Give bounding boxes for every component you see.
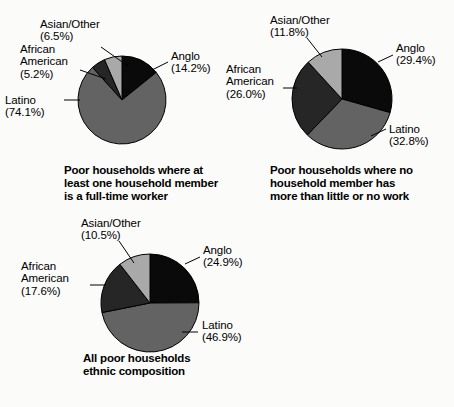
label-asian-other: Asian/Other (10.5%) <box>81 217 141 242</box>
label-african-american: African American (26.0%) <box>226 63 274 100</box>
caption-line-1: All poor households <box>83 352 190 365</box>
caption-line-2: ethnic composition <box>83 365 190 378</box>
label-african-american-line2: American <box>21 272 69 284</box>
label-anglo-name: Anglo <box>396 42 425 54</box>
label-latino: Latino (46.9%) <box>202 319 242 344</box>
label-african-american-line1: African <box>226 63 261 75</box>
caption-line-3: more than little or no work <box>270 190 413 203</box>
label-asian-other-name: Asian/Other <box>270 14 330 26</box>
pie-slice-anglo <box>150 254 199 303</box>
label-asian-other: Asian/Other (11.8%) <box>270 14 330 39</box>
label-anglo-pct: (24.9%) <box>203 256 243 268</box>
label-anglo-pct: (29.4%) <box>396 54 436 66</box>
pie-chart-all-poor: Asian/Other (10.5%) African American (17… <box>0 210 454 407</box>
caption-line-2: household member has <box>270 177 413 190</box>
pie-graphic-all-poor <box>0 210 454 407</box>
label-asian-other-pct: (10.5%) <box>81 229 141 241</box>
label-latino: Latino (32.8%) <box>389 123 429 148</box>
label-african-american-pct: (26.0%) <box>226 88 274 100</box>
label-african-american: African American (17.6%) <box>21 260 69 297</box>
label-latino-pct: (32.8%) <box>389 135 429 147</box>
label-asian-other-pct: (11.8%) <box>270 26 330 38</box>
label-asian-other-name: Asian/Other <box>81 217 141 229</box>
label-anglo: Anglo (24.9%) <box>203 244 243 269</box>
caption-all-poor: All poor households ethnic composition <box>83 352 190 378</box>
label-african-american-line2: American <box>226 75 274 87</box>
label-anglo: Anglo (29.4%) <box>396 42 436 67</box>
label-anglo-name: Anglo <box>203 244 232 256</box>
label-african-american-line1: African <box>21 260 56 272</box>
label-latino-name: Latino <box>202 319 233 331</box>
label-latino-pct: (46.9%) <box>202 331 242 343</box>
label-latino-name: Latino <box>389 123 420 135</box>
caption-no-work: Poor households where no household membe… <box>270 164 413 204</box>
pie-chart-no-work: Asian/Other (11.8%) African American (26… <box>0 0 454 210</box>
figure-canvas: Asian/Other (6.5%) African American (5.2… <box>0 0 454 407</box>
label-african-american-pct: (17.6%) <box>21 285 69 297</box>
caption-line-1: Poor households where no <box>270 164 413 177</box>
